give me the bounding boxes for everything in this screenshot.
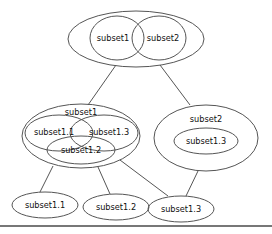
node-leaf-2[interactable]: subset1.2 [83,194,149,220]
edge-mid-left-to-leaf-2 [98,167,110,194]
venn-tree-diagram: subset1subset2subset1subset1.1subset1.3s… [0,0,272,234]
edge-mid-left-to-leaf-3 [120,160,168,196]
node-leaf-3-label: subset1.3 [161,204,201,214]
node-leaf-1[interactable]: subset1.1 [12,192,78,218]
node-mid-right-member-0-label: subset1.3 [186,136,226,146]
edge-mid-left-to-leaf-1 [40,166,53,192]
node-root[interactable]: subset1subset2 [68,11,204,67]
node-root-outer-ellipse [68,11,204,67]
node-leaf-1-label: subset1.1 [25,200,65,210]
node-mid-right-title-label: subset2 [190,114,222,124]
node-root-member-0-label: subset1 [97,33,129,43]
node-mid-left-member-1-label: subset1.3 [89,127,129,137]
edge-root-to-mid-right [160,65,190,105]
node-mid-left[interactable]: subset1subset1.1subset1.3subset1.2 [22,104,140,168]
edge-root-to-mid-left [88,65,116,105]
node-leaf-3[interactable]: subset1.3 [148,196,214,222]
diagram-canvas: subset1subset2subset1subset1.1subset1.3s… [0,0,272,234]
node-mid-left-member-0-label: subset1.1 [34,127,74,137]
node-root-member-1-label: subset2 [147,33,179,43]
node-mid-left-member-2-label: subset1.2 [61,145,101,155]
edge-mid-right-to-leaf-3 [186,171,198,196]
node-mid-right[interactable]: subset2subset1.3 [154,105,258,171]
node-leaf-2-label: subset1.2 [96,202,136,212]
node-mid-left-title-label: subset1 [65,107,97,117]
